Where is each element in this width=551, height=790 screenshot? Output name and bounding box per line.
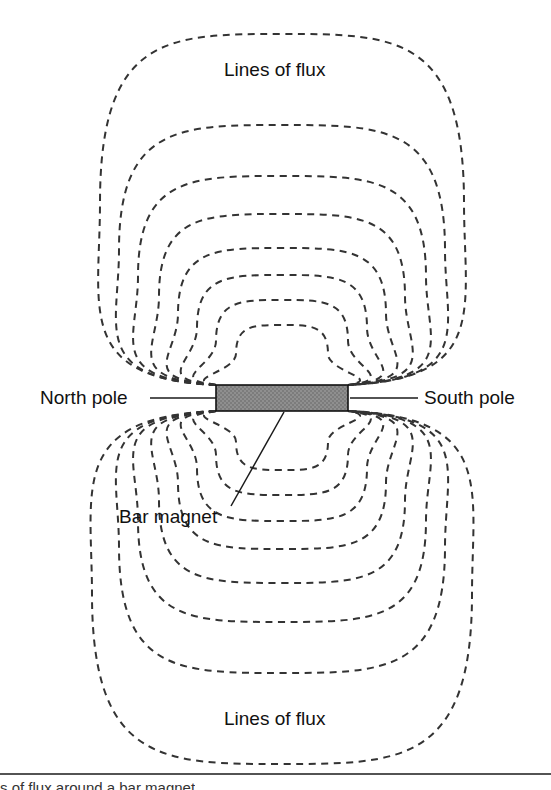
flux-line-lower-4 — [167, 411, 398, 549]
bar-magnet-shape — [216, 385, 348, 411]
flux-line-upper-5 — [151, 214, 413, 385]
flux-line-lower-3 — [181, 411, 384, 521]
flux-line-upper-3 — [181, 275, 384, 385]
magnet-rect — [216, 385, 348, 411]
figure-caption: s of flux around a bar magnet — [0, 779, 195, 790]
label-south-pole: South pole — [424, 388, 515, 407]
flux-line-upper-6 — [133, 176, 431, 385]
label-north-pole: North pole — [40, 388, 128, 407]
label-bar-magnet: Bar magnet — [119, 507, 217, 526]
label-lines-of-flux-bottom: Lines of flux — [224, 709, 325, 728]
flux-line-lower-5 — [151, 411, 413, 583]
bar-magnet-leader — [231, 412, 284, 506]
flux-line-lower-2 — [193, 411, 371, 495]
flux-line-upper-1 — [204, 325, 360, 385]
flux-lines-upper-group — [98, 34, 466, 385]
flux-line-lower-1 — [204, 411, 360, 470]
label-lines-of-flux-top: Lines of flux — [224, 60, 325, 79]
magnetic-field-figure: Lines of flux Lines of flux North pole S… — [0, 0, 551, 790]
flux-line-upper-2 — [193, 300, 371, 385]
